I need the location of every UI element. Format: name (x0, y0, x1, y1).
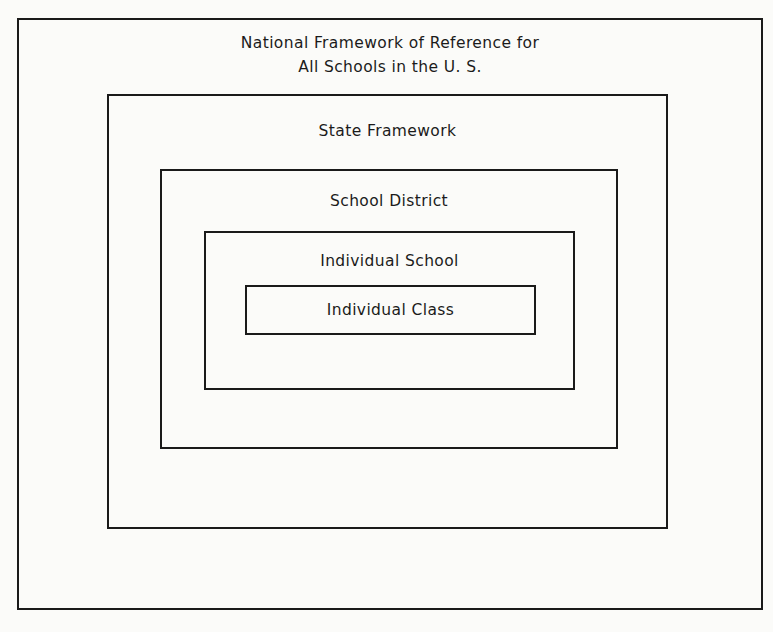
individual-class-box: Individual Class (245, 285, 536, 335)
state-framework-label: State Framework (109, 120, 666, 142)
national-framework-label-line1: National Framework of Reference for (19, 32, 761, 54)
national-framework-label-line2: All Schools in the U. S. (19, 56, 761, 78)
individual-school-label: Individual School (206, 250, 573, 272)
school-district-label: School District (162, 190, 616, 212)
individual-class-label: Individual Class (247, 299, 534, 321)
